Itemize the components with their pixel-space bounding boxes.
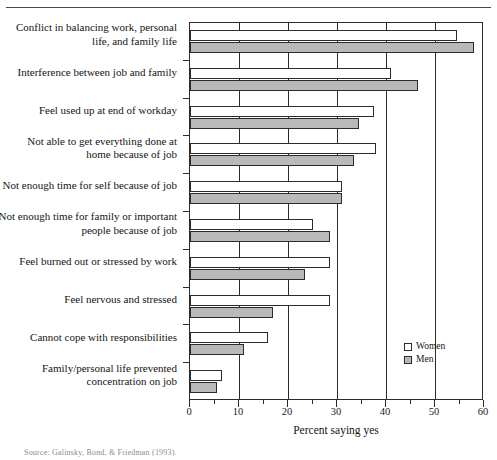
x-tick-minor-55 (459, 400, 460, 404)
category-label-line: Conflict in balancing work, personal (0, 21, 177, 35)
category-label-line: Feel burned out or stressed by work (0, 255, 177, 269)
x-tick-minor-25 (312, 400, 313, 404)
category-label-2: Feel used up at end of workday (0, 104, 177, 118)
x-tick-minor-5 (214, 400, 215, 404)
bar-women-0 (190, 30, 457, 41)
bar-men-4 (190, 193, 342, 204)
category-label-line: Interference between job and family (0, 66, 177, 80)
category-label-0: Conflict in balancing work, personallife… (0, 21, 177, 48)
x-tick-minor-45 (410, 400, 411, 404)
category-label-line: concentration on job (0, 375, 177, 389)
bar-men-3 (190, 155, 354, 166)
category-label-line: Family/personal life prevented (0, 362, 177, 376)
figure-caption: Source: Galinsky, Bond, & Friedman (1993… (24, 448, 177, 457)
bar-women-9 (190, 370, 222, 381)
bar-men-8 (190, 344, 244, 355)
category-label-7: Feel nervous and stressed (0, 293, 177, 307)
category-label-line: Not enough time for self because of job (0, 179, 177, 193)
x-tick-minor-15 (263, 400, 264, 404)
bar-women-7 (190, 295, 330, 306)
category-label-5: Not enough time for family or importantp… (0, 210, 177, 237)
bar-women-5 (190, 219, 313, 230)
y-tick-5 (183, 211, 189, 212)
legend-entry-women: Women (404, 340, 445, 353)
y-tick-7 (183, 287, 189, 288)
bar-men-7 (190, 307, 273, 318)
bar-men-6 (190, 269, 305, 280)
category-label-3: Not able to get everything done athome b… (0, 135, 177, 162)
category-label-line: home because of job (0, 148, 177, 162)
figure-canvas: 0102030405060 Conflict in balancing work… (0, 0, 497, 460)
x-tick-label-40: 40 (370, 406, 400, 418)
y-tick-2 (183, 98, 189, 99)
x-tick-label-10: 10 (223, 406, 253, 418)
category-label-line: life, and family life (0, 35, 177, 49)
category-label-line: people because of job (0, 224, 177, 238)
bar-women-3 (190, 143, 376, 154)
bar-women-2 (190, 106, 374, 117)
x-axis-ticks: 0102030405060 (189, 400, 483, 418)
bar-women-4 (190, 181, 342, 192)
x-tick-minor-35 (361, 400, 362, 404)
legend-label: Men (416, 353, 433, 366)
legend-label: Women (416, 340, 445, 353)
y-tick-6 (183, 249, 189, 250)
bar-men-9 (190, 382, 217, 393)
bar-women-1 (190, 68, 391, 79)
top-divider-rule (6, 7, 491, 8)
bar-men-1 (190, 80, 418, 91)
category-label-line: Not enough time for family or important (0, 210, 177, 224)
legend-swatch-women (404, 343, 412, 351)
x-tick-label-0: 0 (174, 406, 204, 418)
x-tick-label-20: 20 (272, 406, 302, 418)
x-tick-label-60: 60 (468, 406, 497, 418)
category-label-4: Not enough time for self because of job (0, 179, 177, 193)
x-axis-title: Percent saying yes (189, 424, 483, 436)
bar-women-8 (190, 332, 268, 343)
x-tick-label-50: 50 (419, 406, 449, 418)
bar-men-5 (190, 231, 330, 242)
y-tick-1 (183, 60, 189, 61)
category-label-1: Interference between job and family (0, 66, 177, 80)
category-label-line: Not able to get everything done at (0, 135, 177, 149)
y-tick-9 (183, 362, 189, 363)
category-label-line: Feel nervous and stressed (0, 293, 177, 307)
category-label-line: Feel used up at end of workday (0, 104, 177, 118)
legend-entry-men: Men (404, 353, 445, 366)
category-label-6: Feel burned out or stressed by work (0, 255, 177, 269)
bar-men-2 (190, 118, 359, 129)
category-label-8: Cannot cope with responsibilities (0, 331, 177, 345)
legend-swatch-men (404, 356, 412, 364)
category-label-line: Cannot cope with responsibilities (0, 331, 177, 345)
chart-legend: WomenMen (404, 340, 445, 366)
y-tick-3 (183, 135, 189, 136)
bar-men-0 (190, 42, 474, 53)
y-tick-8 (183, 324, 189, 325)
category-labels: Conflict in balancing work, personallife… (0, 22, 183, 400)
category-label-9: Family/personal life preventedconcentrat… (0, 362, 177, 389)
bar-women-6 (190, 257, 330, 268)
x-tick-label-30: 30 (321, 406, 351, 418)
y-tick-4 (183, 173, 189, 174)
